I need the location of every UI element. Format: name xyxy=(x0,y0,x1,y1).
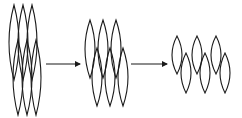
lens-shape xyxy=(111,20,121,78)
lens-shape xyxy=(211,36,221,74)
lens-shape xyxy=(98,20,108,78)
lens-shape xyxy=(172,36,182,74)
lens-shape xyxy=(92,48,102,106)
stage-3-separated-lenses xyxy=(172,36,230,93)
lens-shape xyxy=(181,53,191,93)
lens-shape xyxy=(105,48,115,106)
stage-1-overlapping-lenses xyxy=(9,5,41,115)
stage-2-partially-separated-lenses xyxy=(85,20,128,106)
lens-separation-diagram xyxy=(0,0,242,118)
lens-shape xyxy=(118,48,128,106)
lens-shape xyxy=(85,20,95,78)
lens-shape xyxy=(220,53,230,93)
diagram-canvas xyxy=(0,0,242,118)
